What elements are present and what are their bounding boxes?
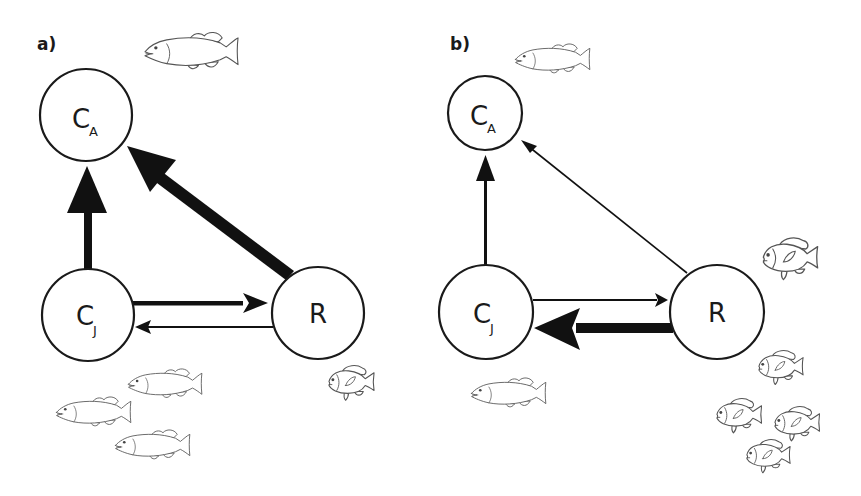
- node-r-b: R: [670, 265, 764, 359]
- node-ca-b-sub: A: [487, 121, 496, 136]
- node-cj-b-main: C: [473, 299, 491, 329]
- sunfish-icon: [763, 238, 817, 280]
- panel-a: a) C A C J: [37, 32, 374, 458]
- node-r-b-main: R: [708, 298, 726, 328]
- bass-icon: [57, 397, 131, 426]
- food-web-diagram: a) C A C J: [0, 0, 861, 496]
- node-ca-a: C A: [40, 69, 132, 161]
- node-r-a-main: R: [309, 299, 327, 329]
- sunfish-icon: [329, 366, 374, 401]
- node-cj-a-sub: J: [92, 323, 97, 338]
- node-cj-a-main: C: [76, 301, 94, 331]
- arrow-cj-to-r-a: [133, 293, 268, 313]
- bass-icon: [129, 369, 202, 398]
- node-cj-b-sub: J: [489, 321, 494, 336]
- panel-label-a: a): [37, 34, 56, 54]
- bass-icon: [116, 430, 190, 459]
- node-ca-a-sub: A: [89, 124, 98, 139]
- bass-icon: [145, 32, 238, 68]
- sunfish-icon: [759, 351, 803, 385]
- node-r-a: R: [272, 267, 364, 359]
- panel-label-b: b): [450, 34, 470, 54]
- panel-b: b) C A C J: [439, 34, 820, 473]
- sunfish-icon: [717, 399, 762, 433]
- arrow-cj-to-ca-b: [476, 155, 495, 266]
- bass-icon: [516, 44, 590, 73]
- node-cj-b: C J: [439, 265, 533, 359]
- arrow-r-to-cj-b: [534, 308, 673, 350]
- bass-icon: [472, 378, 546, 407]
- arrow-r-to-ca-a: [127, 146, 294, 280]
- node-ca-b: C A: [448, 76, 522, 150]
- arrow-r-to-cj-a: [135, 320, 273, 334]
- arrow-cj-to-ca-a: [67, 166, 107, 270]
- arrow-r-to-ca-b: [521, 140, 687, 273]
- sunfish-icon: [775, 407, 820, 441]
- node-ca-a-main: C: [72, 104, 90, 134]
- node-cj-a: C J: [42, 269, 134, 361]
- arrow-cj-to-r-b: [533, 293, 668, 307]
- node-ca-b-main: C: [470, 101, 488, 131]
- sunfish-icon: [747, 440, 790, 473]
